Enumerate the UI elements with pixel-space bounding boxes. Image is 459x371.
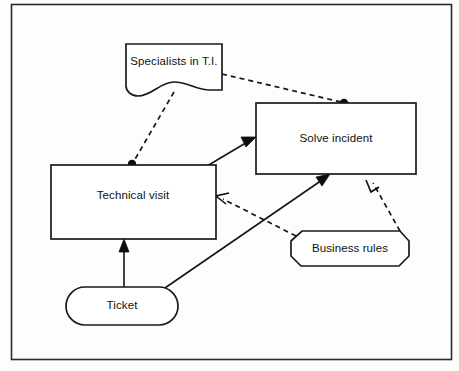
specialists-shape xyxy=(126,44,222,96)
technical-visit-shape xyxy=(51,165,216,239)
diagram-container: Specialists in T.I. Solve incident Techn… xyxy=(0,0,459,371)
connector-technical-visit-to-solve-incident xyxy=(207,137,256,166)
connector-business-rules-to-solve-incident xyxy=(366,180,400,231)
node-ticket[interactable]: Ticket xyxy=(66,287,178,325)
node-label-business-rules: Business rules xyxy=(312,242,388,254)
node-label-technical-visit: Technical visit xyxy=(97,189,170,201)
node-label-ticket: Ticket xyxy=(107,299,139,311)
node-technical-visit[interactable]: Technical visit xyxy=(51,165,216,239)
node-label-specialists: Specialists in T.I. xyxy=(130,55,217,67)
node-specialists-in-ti[interactable]: Specialists in T.I. xyxy=(126,44,222,96)
connector-ticket-to-technical-visit xyxy=(119,239,129,287)
diagram-canvas: Specialists in T.I. Solve incident Techn… xyxy=(0,0,459,371)
node-solve-incident[interactable]: Solve incident xyxy=(256,103,416,174)
node-business-rules[interactable]: Business rules xyxy=(291,231,409,266)
node-label-solve-incident: Solve incident xyxy=(300,132,374,144)
connector-specialists-to-technical-visit xyxy=(128,92,174,168)
connector-business-rules-to-technical-visit xyxy=(216,193,296,236)
